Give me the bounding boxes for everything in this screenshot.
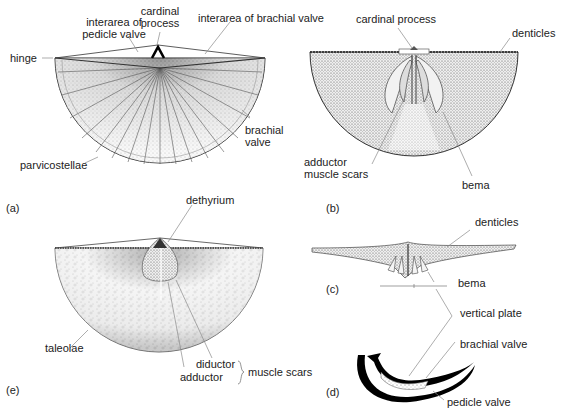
panel-d-drawing — [357, 353, 475, 402]
label-muscle-scars: muscle scars — [248, 366, 312, 378]
label-bema-c: bema — [458, 277, 486, 289]
label-denticles-c: denticles — [475, 216, 518, 228]
label-interarea-brachial: interarea of brachial valve — [198, 12, 324, 24]
panel-a-drawing — [55, 45, 265, 164]
label-parvicostellae: parvicostellae — [20, 159, 87, 171]
label-denticles-b: denticles — [512, 27, 555, 39]
label-vertical-plate: vertical plate — [460, 307, 522, 319]
label-adductor: adductor — [180, 371, 223, 383]
panel-b-drawing — [310, 46, 518, 156]
brachiopod-figure — [0, 0, 565, 415]
panel-label-b: (b) — [326, 202, 339, 214]
label-brachial-valve-d: brachial valve — [460, 338, 527, 350]
label-cardinal-process-b: cardinal process — [356, 13, 436, 25]
label-diductor: diductor — [196, 358, 235, 370]
panel-label-a: (a) — [6, 202, 19, 214]
label-pedicle-valve: pedicle valve — [447, 396, 511, 408]
label-bema-b: bema — [462, 179, 490, 191]
label-cardinal-process-a: cardinal process — [135, 5, 185, 29]
panel-label-d: (d) — [326, 386, 339, 398]
panel-label-e: (e) — [6, 384, 19, 396]
brace — [238, 361, 244, 384]
label-brachial-valve-a: brachial valve — [245, 124, 284, 148]
label-dethyrium: dethyrium — [186, 194, 234, 206]
label-hinge: hinge — [10, 52, 37, 64]
panel-e-drawing — [55, 238, 263, 352]
label-adductor-muscle-scars: adductor muscle scars — [304, 156, 368, 180]
label-taleolae: taleolae — [45, 342, 84, 354]
panel-label-c: (c) — [326, 283, 339, 295]
